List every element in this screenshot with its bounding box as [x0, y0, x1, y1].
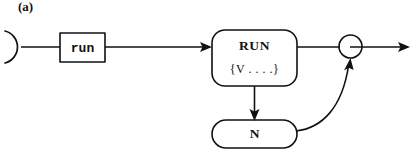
RUN-state-variables: {V . . . .}	[230, 62, 279, 76]
state-transition-diagram: run RUN {V . . . .} N	[0, 0, 413, 154]
run-event-label: run	[71, 41, 95, 56]
N-node-label: N	[250, 126, 260, 141]
start-arc-icon	[5, 31, 17, 63]
figure-root: (a) run RUN {V . . . .} N	[0, 0, 413, 154]
edge-n-to-junction-curve	[296, 66, 349, 131]
RUN-state-label: RUN	[239, 38, 270, 53]
